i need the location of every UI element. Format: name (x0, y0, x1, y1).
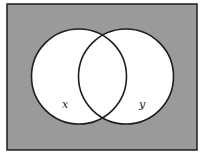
venn-diagram: x y (0, 0, 207, 157)
set-x-label: x (62, 98, 69, 111)
set-y-label: y (138, 98, 146, 111)
